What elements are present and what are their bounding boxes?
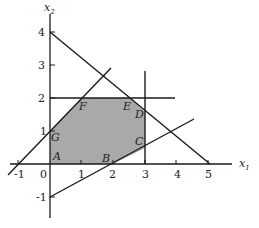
point-label-d: D bbox=[134, 108, 144, 121]
y-tick-label: 1 bbox=[40, 125, 47, 138]
y-tick-label: 3 bbox=[38, 59, 45, 72]
x-tick-label: 1 bbox=[78, 168, 85, 181]
x-tick-label: 5 bbox=[205, 168, 212, 181]
y-tick-label: 4 bbox=[38, 26, 45, 39]
x-tick-label: 3 bbox=[142, 168, 149, 181]
feasible-region-diagram: x2 x1 -1 0 1 2 3 4 5 4 3 2 1 -1 A B C D … bbox=[0, 0, 259, 228]
point-label-a: A bbox=[52, 150, 61, 163]
y-axis-label: x2 bbox=[44, 1, 55, 16]
x-tick-label: 2 bbox=[109, 168, 116, 181]
x-tick-label: 0 bbox=[40, 168, 47, 181]
point-label-b: B bbox=[101, 152, 110, 165]
x-tick-label: 4 bbox=[174, 168, 181, 181]
y-tick-label: -1 bbox=[36, 191, 47, 204]
x-axis-label: x1 bbox=[239, 157, 250, 172]
point-label-c: C bbox=[135, 135, 144, 148]
point-label-g: G bbox=[51, 131, 60, 144]
y-tick-label: 2 bbox=[38, 92, 45, 105]
point-label-e: E bbox=[122, 100, 131, 113]
x-tick-label: -1 bbox=[14, 168, 25, 181]
y-ticks bbox=[50, 32, 55, 197]
point-label-f: F bbox=[78, 100, 87, 113]
